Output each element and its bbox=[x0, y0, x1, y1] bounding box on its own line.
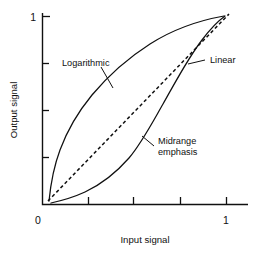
leader-logarithmic bbox=[101, 67, 113, 88]
annotation-leaders bbox=[101, 60, 205, 146]
x-axis-title: Input signal bbox=[120, 234, 169, 245]
y-axis-ticks bbox=[43, 17, 51, 158]
leader-midrange bbox=[142, 136, 154, 146]
leader-linear bbox=[188, 60, 205, 64]
annotation-logarithmic-label: Logarithmic bbox=[62, 58, 110, 68]
x-axis-ticks bbox=[89, 197, 227, 205]
y-axis-title: Output signal bbox=[8, 82, 19, 139]
x-axis-max-label: 1 bbox=[223, 214, 229, 226]
chart-canvas: 1 0 1 Logarithmic Linear Midrange emphas… bbox=[0, 0, 263, 256]
series-group bbox=[48, 14, 229, 203]
axes-group bbox=[43, 13, 249, 205]
annotation-midrange-label-line2: emphasis bbox=[158, 147, 198, 157]
series-midrange-emphasis-curve bbox=[51, 16, 225, 203]
chart-figure: 1 0 1 Logarithmic Linear Midrange emphas… bbox=[0, 0, 263, 256]
annotation-linear-label: Linear bbox=[210, 55, 236, 65]
series-linear-curve bbox=[48, 14, 229, 201]
y-axis-max-label: 1 bbox=[30, 11, 36, 23]
annotation-midrange-label-line1: Midrange bbox=[158, 136, 196, 146]
x-axis-origin-label: 0 bbox=[35, 214, 41, 226]
axis-lines bbox=[43, 13, 249, 205]
